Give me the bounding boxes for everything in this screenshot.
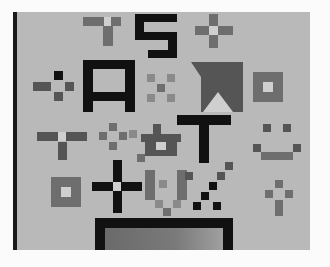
card-left-edge: [13, 12, 17, 250]
gray-x-glyph: [145, 170, 155, 200]
cross-glyph-top-left: [83, 17, 121, 26]
black-x-glyph: [209, 182, 217, 190]
plus-glyph-bottom-right: [275, 180, 283, 188]
smiley-face: [263, 124, 271, 132]
checker-glyph: [147, 74, 155, 82]
gradient-bar: [105, 228, 223, 250]
test-card-photo: [13, 12, 310, 250]
small-diamond: [99, 132, 107, 140]
diamond-cross-left: [33, 82, 51, 91]
star-glyph: [153, 124, 161, 134]
bar-frame: [95, 218, 233, 228]
